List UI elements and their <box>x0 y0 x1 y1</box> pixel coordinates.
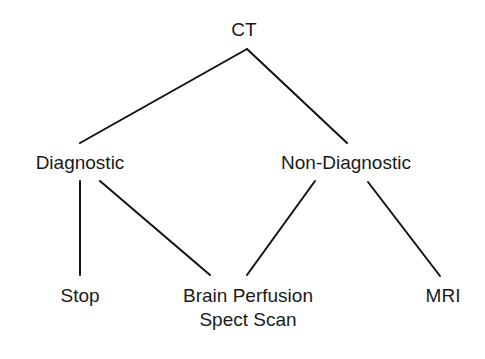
node-brain-perfusion-spect-scan: Brain Perfusion Spect Scan <box>183 284 313 332</box>
node-label-line-2: Spect Scan <box>183 308 313 332</box>
node-mri: MRI <box>426 284 461 308</box>
edge-ct-diagnostic <box>80 49 247 143</box>
edge-ct-non-diagnostic <box>247 49 347 143</box>
node-ct: CT <box>231 18 256 42</box>
node-non-diagnostic: Non-Diagnostic <box>281 151 411 175</box>
node-diagnostic: Diagnostic <box>36 151 125 175</box>
edge-diagnostic-brain-perfusion <box>100 181 210 275</box>
node-stop: Stop <box>60 284 99 308</box>
edge-non-diagnostic-mri <box>368 182 440 276</box>
node-label-line-1: Brain Perfusion <box>183 284 313 308</box>
decision-tree-diagram: CT Diagnostic Non-Diagnostic Stop Brain … <box>0 0 485 359</box>
edge-non-diagnostic-brain-perfusion <box>247 181 315 275</box>
